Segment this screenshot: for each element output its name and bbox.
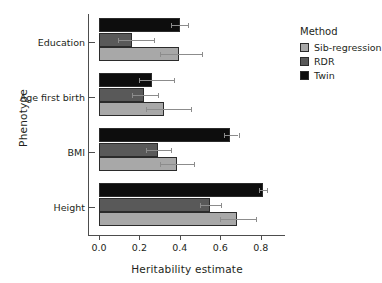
error-cap-twin-3-low [259, 188, 260, 193]
error-cap-rdr-1-high [158, 93, 159, 98]
legend: Method Sib-regression RDR Twin [300, 26, 380, 84]
error-cap-rdr-2-high [171, 148, 172, 153]
legend-label-sib-regression: Sib-regression [314, 42, 382, 53]
error-bar-twin-1 [139, 80, 173, 81]
error-cap-sib-3-high [256, 217, 257, 222]
legend-item-rdr[interactable]: RDR [300, 56, 380, 67]
x-tick-label-2: 0.4 [172, 242, 187, 253]
y-tick-3 [88, 207, 95, 208]
error-cap-twin-2-low [224, 133, 225, 138]
error-cap-sib-0-high [202, 52, 203, 57]
x-axis-line [88, 235, 285, 236]
error-cap-sib-1-low [146, 107, 147, 112]
error-cap-rdr-3-low [200, 203, 201, 208]
error-cap-twin-1-low [139, 78, 140, 83]
x-tick-label-3: 0.6 [213, 242, 228, 253]
bar-sib-3[interactable] [99, 212, 237, 226]
legend-title: Method [300, 26, 380, 37]
chart-figure: Phenotype Heritability estimate 0.00.20.… [0, 0, 382, 283]
error-cap-rdr-0-low [118, 38, 119, 43]
error-cap-rdr-2-low [146, 148, 147, 153]
bar-group-height: Height [99, 179, 285, 234]
error-bar-rdr-3 [200, 205, 221, 206]
error-bar-twin-0 [171, 25, 188, 26]
x-tick-1 [139, 235, 140, 240]
error-cap-sib-1-high [191, 107, 192, 112]
error-bar-sib-3 [220, 219, 255, 220]
error-cap-twin-0-low [171, 23, 172, 28]
error-bar-twin-3 [259, 190, 267, 191]
y-tick-label-3: Height [54, 201, 85, 212]
error-bar-twin-2 [224, 135, 238, 136]
error-bar-sib-2 [160, 164, 194, 165]
y-tick-0 [88, 42, 95, 43]
error-cap-twin-1-high [174, 78, 175, 83]
y-axis-line [88, 14, 89, 235]
error-bar-sib-1 [146, 109, 191, 110]
x-tick-4 [261, 235, 262, 240]
y-axis-title: Phenotype [17, 73, 29, 163]
error-cap-twin-3-high [267, 188, 268, 193]
legend-swatch-twin [300, 71, 309, 80]
legend-label-twin: Twin [314, 70, 335, 81]
x-tick-label-0: 0.0 [91, 242, 106, 253]
error-cap-rdr-1-low [132, 93, 133, 98]
error-cap-sib-2-low [160, 162, 161, 167]
bar-twin-3[interactable] [99, 183, 263, 197]
bar-twin-0[interactable] [99, 18, 180, 32]
bar-rdr-3[interactable] [99, 198, 210, 212]
error-cap-rdr-0-high [154, 38, 155, 43]
error-bar-rdr-0 [118, 40, 153, 41]
error-cap-sib-2-high [194, 162, 195, 167]
error-bar-rdr-2 [146, 150, 171, 151]
error-cap-twin-2-high [239, 133, 240, 138]
x-tick-0 [99, 235, 100, 240]
legend-label-rdr: RDR [314, 56, 335, 67]
x-axis-title: Heritability estimate [99, 263, 275, 275]
legend-item-twin[interactable]: Twin [300, 70, 380, 81]
legend-swatch-sib-regression [300, 43, 309, 52]
error-bar-sib-0 [160, 54, 202, 55]
legend-item-sib-regression[interactable]: Sib-regression [300, 42, 380, 53]
error-cap-twin-0-high [188, 23, 189, 28]
error-bar-rdr-1 [132, 95, 157, 96]
y-tick-label-0: Education [38, 36, 85, 47]
y-tick-1 [88, 97, 95, 98]
y-tick-label-1: Age first birth [20, 91, 85, 102]
legend-swatch-rdr [300, 57, 309, 66]
error-cap-sib-0-low [160, 52, 161, 57]
bar-group-education: Education [99, 14, 285, 69]
error-cap-rdr-3-high [221, 203, 222, 208]
x-tick-label-4: 0.8 [253, 242, 268, 253]
bar-group-bmi: BMI [99, 124, 285, 179]
y-tick-label-2: BMI [67, 146, 85, 157]
error-cap-sib-3-low [220, 217, 221, 222]
x-tick-3 [220, 235, 221, 240]
bar-twin-2[interactable] [99, 128, 230, 142]
x-tick-label-1: 0.2 [132, 242, 147, 253]
x-tick-2 [180, 235, 181, 240]
y-tick-2 [88, 152, 95, 153]
bar-group-age-first-birth: Age first birth [99, 69, 285, 124]
